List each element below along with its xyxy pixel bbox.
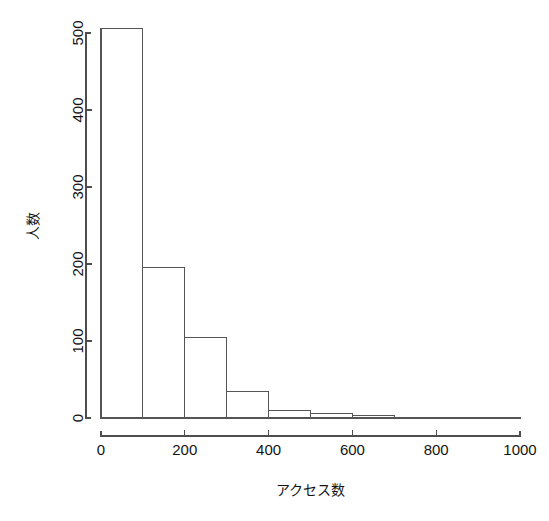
histogram-bar <box>185 338 227 418</box>
histogram-bar <box>478 417 520 418</box>
plot-area: 010020030040050002004006008001000アクセス数人数 <box>0 0 549 521</box>
histogram-bar <box>101 28 143 418</box>
y-axis-tick-label: 400 <box>69 97 86 122</box>
x-axis-tick-label: 0 <box>97 441 105 458</box>
y-axis-tick-label: 300 <box>69 174 86 199</box>
x-axis-tick-label: 200 <box>172 441 197 458</box>
y-axis-tick-label: 0 <box>69 414 86 422</box>
y-axis-title: 人数 <box>25 212 41 240</box>
histogram-bar <box>269 410 311 418</box>
x-axis-title: アクセス数 <box>276 482 345 498</box>
x-axis-tick-label: 400 <box>256 441 281 458</box>
x-axis-tick-label: 600 <box>340 441 365 458</box>
histogram-bar <box>436 417 478 418</box>
histogram-bar <box>227 392 269 418</box>
y-axis-line <box>86 33 91 418</box>
x-axis-tick-label: 1000 <box>503 441 536 458</box>
histogram-chart: 010020030040050002004006008001000アクセス数人数 <box>0 0 549 521</box>
y-axis-tick-label: 100 <box>69 328 86 353</box>
x-axis-tick-label: 800 <box>424 441 449 458</box>
y-axis-tick-label: 200 <box>69 251 86 276</box>
y-axis-tick-label: 500 <box>69 20 86 45</box>
histogram-bar <box>352 416 394 418</box>
histogram-bar <box>394 417 436 418</box>
x-axis-line <box>101 431 520 436</box>
histogram-bar <box>143 267 185 418</box>
histogram-bar <box>311 413 353 418</box>
